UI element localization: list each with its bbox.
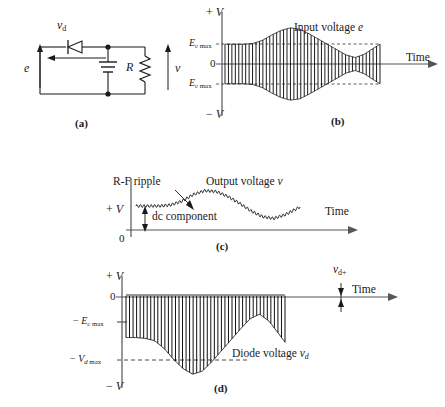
figure-diode-detector: vd e R v (a) + V − V 0 Ec max Ec max Inp… [0,0,445,407]
vdplus-arrow-head-up [338,299,344,307]
panel-d-waveform [0,0,445,407]
vd-plus-label: vd+ [333,264,346,277]
panel-tag-d: (d) [214,383,227,394]
axis-d-bottom-label: − V [106,380,123,392]
axis-d-zero-label: 0 [110,291,116,302]
axis-d-time-label: Time [352,284,376,296]
vdplus-arrow-head-down [338,288,344,296]
axis-d-top-label: + V [106,270,123,282]
axis-d-tick-ecmax: − Ec max [73,316,104,328]
axis-d-tick-vdmax: − Vd max [70,354,101,366]
waveform-d-trace [126,295,285,374]
panel-d-caption: Diode voltage vd [232,348,309,361]
axis-d-arrow [388,293,398,301]
